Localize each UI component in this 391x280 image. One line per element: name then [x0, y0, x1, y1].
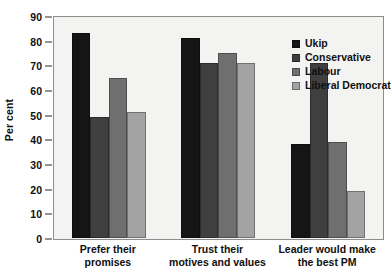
- y-axis-tick-mark: [45, 140, 52, 141]
- bar: [291, 144, 310, 238]
- plot-area: UkipConservativeLabourLiberal Democrat: [53, 16, 384, 240]
- y-axis-tick-mark: [45, 239, 52, 240]
- legend-item-label: Labour: [305, 66, 341, 77]
- x-axis-category-label-line: the best PM: [272, 256, 382, 269]
- legend-swatch-icon: [292, 82, 300, 90]
- y-axis-tick-marks: [45, 17, 53, 239]
- y-axis-tick-label: 10: [16, 209, 42, 220]
- y-axis-tick-mark: [45, 17, 52, 18]
- y-axis-tick-label: 30: [16, 160, 42, 171]
- legend-item-label: Conservative: [305, 52, 371, 63]
- y-axis-tick-mark: [45, 214, 52, 215]
- bar-group: [54, 18, 164, 238]
- bar: [328, 142, 347, 238]
- bar: [200, 63, 219, 238]
- legend-item-label: Ukip: [305, 38, 328, 49]
- legend-item: Ukip: [292, 37, 391, 50]
- bar-group: [164, 18, 274, 238]
- legend-item: Labour: [292, 65, 391, 78]
- y-axis-tick-label: 60: [16, 86, 42, 97]
- y-axis-tick-label: 40: [16, 135, 42, 146]
- y-axis-tick-label: 20: [16, 184, 42, 195]
- y-axis-tick-mark: [45, 66, 52, 67]
- bar: [109, 78, 128, 238]
- x-axis-category-label: Leader would makethe best PM: [272, 243, 382, 269]
- bar: [218, 53, 237, 238]
- y-axis-tick-label: 90: [16, 12, 42, 23]
- y-axis-tick-mark: [45, 41, 52, 42]
- bar: [90, 117, 109, 238]
- bar: [237, 63, 256, 238]
- x-axis-category-label: Prefer theirpromises: [53, 243, 163, 269]
- y-axis-tick-mark: [45, 91, 52, 92]
- legend-item: Liberal Democrat: [292, 79, 391, 92]
- x-axis-category-label-line: promises: [53, 256, 163, 269]
- legend-item: Conservative: [292, 51, 391, 64]
- y-axis-title-text: Per cent: [3, 99, 15, 141]
- bar: [127, 112, 146, 238]
- x-axis-category-label-line: Leader would make: [272, 243, 382, 256]
- y-axis-tick-mark: [45, 115, 52, 116]
- x-axis-category-labels: Prefer theirpromisesTrust theirmotives a…: [53, 243, 384, 277]
- bar: [347, 191, 366, 238]
- y-axis-tick-mark: [45, 189, 52, 190]
- y-axis-tick-label: 70: [16, 61, 42, 72]
- legend-item-label: Liberal Democrat: [305, 80, 391, 91]
- legend-swatch-icon: [292, 54, 300, 62]
- x-axis-category-label-line: motives and values: [163, 256, 273, 269]
- legend-swatch-icon: [292, 68, 300, 76]
- y-axis-tick-label: 0: [16, 234, 42, 245]
- x-axis-category-label-line: Prefer their: [53, 243, 163, 256]
- y-axis-tick-labels: 0102030405060708090: [16, 17, 42, 239]
- bar: [72, 33, 91, 238]
- legend-swatch-icon: [292, 40, 300, 48]
- y-axis-tick-mark: [45, 165, 52, 166]
- x-axis-category-label: Trust theirmotives and values: [163, 243, 273, 269]
- bar: [181, 38, 200, 238]
- x-axis-category-label-line: Trust their: [163, 243, 273, 256]
- chart-legend: UkipConservativeLabourLiberal Democrat: [292, 37, 391, 92]
- y-axis-tick-label: 80: [16, 36, 42, 47]
- y-axis-tick-label: 50: [16, 110, 42, 121]
